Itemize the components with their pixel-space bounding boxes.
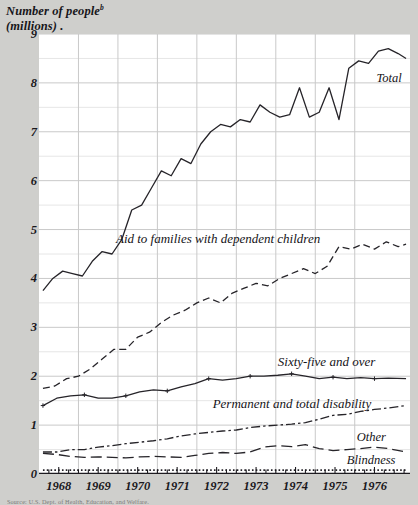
series-label-total: Total <box>376 71 401 86</box>
y-tick-label: 1 <box>11 418 37 433</box>
x-tick-label: 1970 <box>125 479 150 494</box>
y-tick-label: 2 <box>11 369 37 384</box>
series-label-permanent-and-total-disability: Permanent and total disability <box>213 396 372 412</box>
x-axis-tick-labels: 196819691970197119721973197419751976 <box>39 479 410 499</box>
y-tick-label: 3 <box>11 320 37 335</box>
y-tick-label: 7 <box>11 124 37 139</box>
y-tick-label: 6 <box>11 173 37 188</box>
series-line-permanent-and-total-disability <box>43 406 406 452</box>
x-tick-label: 1975 <box>323 479 348 494</box>
x-tick-label: 1973 <box>244 479 269 494</box>
x-tick-label: 1976 <box>362 479 387 494</box>
y-tick-label: 4 <box>11 271 37 286</box>
series-label-aid-to-families-with-dependent-children: Aid to families with dependent children <box>116 231 320 247</box>
y-tick-label: 0 <box>11 467 37 482</box>
y-axis-title-footnote: b <box>100 3 104 12</box>
x-tick-label: 1971 <box>165 479 190 494</box>
x-tick-label: 1972 <box>204 479 229 494</box>
series-label-blindness: Blindness <box>347 453 396 468</box>
y-axis-tick-labels: 0123456789 <box>2 34 37 474</box>
x-tick-label: 1974 <box>283 479 308 494</box>
y-tick-label: 5 <box>11 222 37 237</box>
figure-root: Number of peopleb (millions) . 012345678… <box>0 0 418 505</box>
series-label-sixty-five-and-over: Sixty-five and over <box>278 354 375 370</box>
x-tick-label: 1968 <box>46 479 71 494</box>
y-tick-label: 9 <box>11 27 37 42</box>
figure-caption: Source: U.S. Dept. of Health, Education,… <box>7 498 149 505</box>
y-tick-label: 8 <box>11 75 37 90</box>
y-axis-title-line1: Number of people <box>6 4 100 18</box>
series-label-other: Other <box>357 430 386 445</box>
x-tick-label: 1969 <box>86 479 111 494</box>
